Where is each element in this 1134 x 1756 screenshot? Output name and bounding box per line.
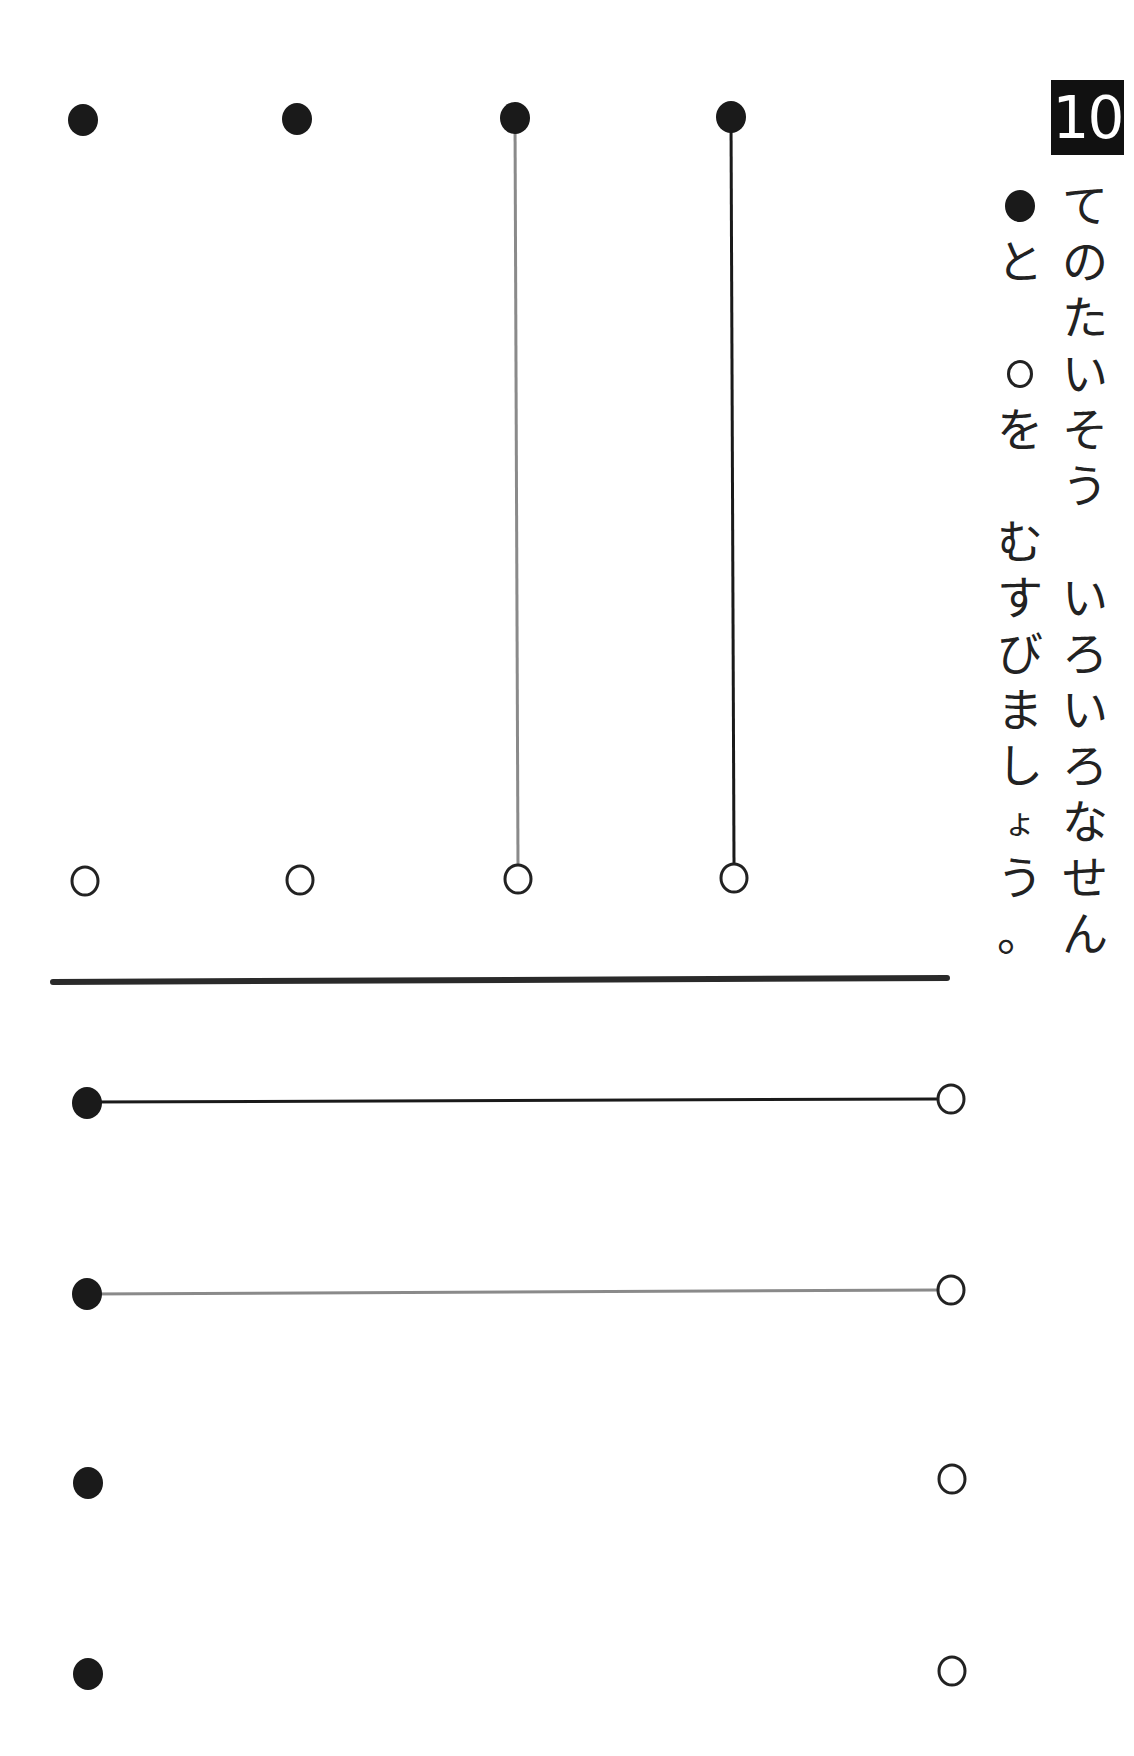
open-dot-icon xyxy=(1007,360,1033,388)
instruction-column-1: て の た い そ う い ろ い ろ な せ ん xyxy=(1055,178,1115,962)
instruction-char: ろ xyxy=(1055,626,1115,682)
instruction-char: を xyxy=(990,402,1050,458)
instruction-char-small: ょ xyxy=(990,794,1050,850)
top-row-2 xyxy=(282,103,313,894)
worksheet-page: 10 て の た い そ う い ろ い ろ な せ ん と を む す び ま… xyxy=(0,0,1134,1756)
top-row-4 xyxy=(716,101,747,892)
instruction-char: い xyxy=(1055,346,1115,402)
end-dot-open[interactable] xyxy=(939,1657,965,1685)
instruction-char: ろ xyxy=(1055,738,1115,794)
end-dot-open[interactable] xyxy=(72,867,98,895)
end-dot-open[interactable] xyxy=(721,864,747,892)
end-dot-open[interactable] xyxy=(938,1085,964,1113)
instruction-char: う xyxy=(1055,458,1115,514)
worksheet-canvas xyxy=(0,0,1134,1756)
start-dot-filled[interactable] xyxy=(73,1658,103,1690)
instruction-char: て xyxy=(1055,178,1115,234)
top-row-3 xyxy=(500,102,531,893)
section-divider xyxy=(53,978,947,982)
start-dot-filled[interactable] xyxy=(68,104,98,136)
instruction-char: な xyxy=(1055,794,1115,850)
instruction-char: た xyxy=(1055,290,1115,346)
page-number-badge: 10 xyxy=(1051,80,1124,155)
start-dot-filled[interactable] xyxy=(72,1087,102,1119)
start-dot-filled[interactable] xyxy=(282,103,312,135)
filled-dot-icon xyxy=(1005,190,1035,222)
start-dot-filled[interactable] xyxy=(72,1278,102,1310)
instruction-char: す xyxy=(990,570,1050,626)
start-dot-filled[interactable] xyxy=(500,102,530,134)
instruction-char: と xyxy=(990,234,1050,290)
end-dot-open[interactable] xyxy=(939,1465,965,1493)
instruction-char: せ xyxy=(1055,850,1115,906)
top-row-1 xyxy=(68,104,98,895)
instruction-char: ん xyxy=(1055,906,1115,962)
instruction-char: 。 xyxy=(990,906,1050,962)
instruction-char: い xyxy=(1055,570,1115,626)
instruction-char: ま xyxy=(990,682,1050,738)
bottom-row-2 xyxy=(72,1276,964,1310)
trace-line-black xyxy=(731,117,734,864)
bottom-exercise xyxy=(72,1085,965,1690)
instruction-char: び xyxy=(990,626,1050,682)
instruction-char: う xyxy=(990,850,1050,906)
start-dot-filled[interactable] xyxy=(73,1467,103,1499)
end-dot-open[interactable] xyxy=(287,866,313,894)
top-exercise xyxy=(68,101,747,895)
instruction-char: し xyxy=(990,738,1050,794)
end-dot-open[interactable] xyxy=(505,865,531,893)
instruction-column-2: と を む す び ま し ょ う 。 xyxy=(990,178,1050,962)
bottom-row-3 xyxy=(73,1465,965,1499)
start-dot-filled[interactable] xyxy=(716,101,746,133)
trace-line-gray xyxy=(88,1290,937,1294)
instruction-char: い xyxy=(1055,682,1115,738)
instruction-char: の xyxy=(1055,234,1115,290)
trace-line-gray xyxy=(515,118,518,866)
bottom-row-1 xyxy=(72,1085,964,1119)
bottom-row-4 xyxy=(73,1657,965,1690)
instruction-char: そ xyxy=(1055,402,1115,458)
instruction-char: む xyxy=(990,514,1050,570)
page-number: 10 xyxy=(1053,89,1123,147)
trace-line-black xyxy=(88,1099,937,1102)
end-dot-open[interactable] xyxy=(938,1276,964,1304)
